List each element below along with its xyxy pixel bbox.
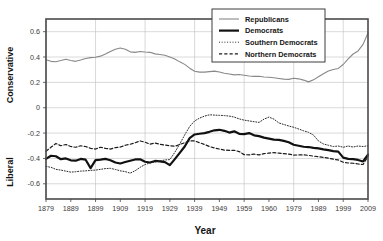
legend-label: Republicans [245,15,289,24]
y-tick-label: -0.2 [28,129,40,138]
x-tick-label: 1919 [137,204,153,213]
chart-container: 0.60.40.20-0.2-0.4-0.6187918891899190919… [0,0,383,241]
legend-label: Democrats [245,26,283,35]
x-tick-label: 1939 [187,204,203,213]
x-axis-title: Year [194,225,215,236]
x-tick-label: 2009 [360,204,376,213]
x-tick-label: 1959 [236,204,252,213]
y-axis-label-liberal: Liberal [5,157,15,187]
x-tick-label: 1989 [310,204,326,213]
x-tick-label: 1899 [88,204,104,213]
y-tick-label: -0.4 [28,154,40,163]
x-tick-label: 1909 [112,204,128,213]
x-tick-label: 1999 [335,204,351,213]
x-tick-label: 1889 [63,204,79,213]
y-tick-label: 0.4 [30,53,40,62]
y-tick-label: 0.2 [30,78,40,87]
x-tick-label: 1929 [162,204,178,213]
line-chart: 0.60.40.20-0.2-0.4-0.6187918891899190919… [0,0,383,241]
chart-legend: RepublicansDemocratsSouthern DemocratsNo… [212,9,325,62]
x-tick-label: 1979 [286,204,302,213]
legend-label: Southern Democrats [245,38,318,47]
legend-label: Northern Democrats [245,50,316,59]
x-tick-label: 1949 [211,204,227,213]
x-tick-label: 1960 [261,204,277,213]
y-tick-label: -0.6 [28,179,40,188]
y-axis-label-conservative: Conservative [5,47,15,104]
y-tick-label: 0.6 [30,27,40,36]
x-tick-label: 1879 [38,204,54,213]
y-tick-label: 0 [36,103,40,112]
